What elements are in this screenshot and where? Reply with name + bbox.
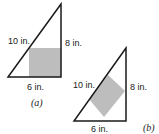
caption-b: (b) bbox=[143, 122, 155, 134]
height-label-b: 8 in. bbox=[130, 82, 147, 92]
inscribed-square-a bbox=[29, 48, 61, 77]
hypotenuse-label-a: 10 in. bbox=[8, 36, 30, 46]
figure-b: 10 in. 8 in. 6 in. (b) bbox=[73, 48, 155, 134]
figure-a: 10 in. 8 in. 6 in. (a) bbox=[8, 4, 82, 109]
hypotenuse-label-b: 10 in. bbox=[73, 80, 95, 90]
base-label-a: 6 in. bbox=[27, 82, 44, 92]
diagram: 10 in. 8 in. 6 in. (a) 10 in. 8 in. 6 in… bbox=[0, 0, 159, 134]
caption-a: (a) bbox=[31, 97, 43, 109]
base-label-b: 6 in. bbox=[91, 124, 108, 134]
height-label-a: 8 in. bbox=[65, 38, 82, 48]
